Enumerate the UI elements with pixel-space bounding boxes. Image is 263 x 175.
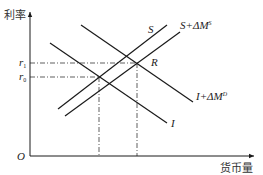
money-market-diagram: 利率 货币量 O r1 r0 S S+ΔMS I I+ΔMD R bbox=[0, 0, 263, 175]
equilibrium-point-r-label: R bbox=[150, 56, 158, 68]
demand-curve-shifted-label: I+ΔMD bbox=[195, 90, 228, 102]
supply-curve-shifted bbox=[65, 32, 180, 116]
x-axis-label: 货币量 bbox=[220, 161, 253, 175]
demand-curve-i-label: I bbox=[170, 117, 176, 129]
supply-curve-shifted-label: S+ΔMS bbox=[180, 19, 212, 31]
r0-label: r0 bbox=[19, 70, 26, 83]
origin-label: O bbox=[17, 150, 25, 162]
y-axis-label: 利率 bbox=[4, 8, 26, 22]
supply-curve-s-label: S bbox=[148, 23, 154, 35]
r1-label: r1 bbox=[19, 56, 26, 69]
